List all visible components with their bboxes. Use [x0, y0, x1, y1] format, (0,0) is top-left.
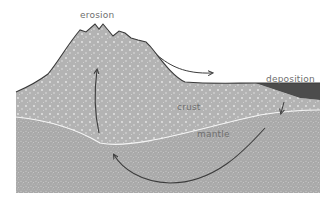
- crust-label: crust: [177, 103, 201, 112]
- erosion-label: erosion: [80, 11, 114, 20]
- mantle-label: mantle: [197, 130, 230, 139]
- deposition-label: deposition: [266, 75, 315, 84]
- rock-cycle-diagram: [0, 0, 336, 206]
